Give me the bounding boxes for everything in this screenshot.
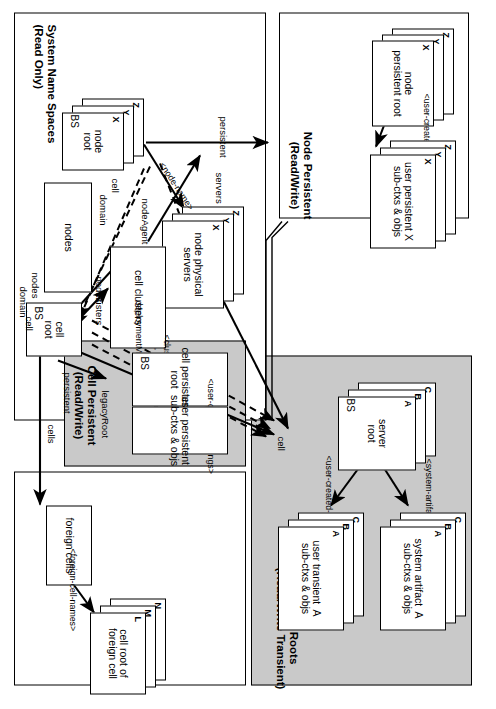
edge-label-domain-a: domain: [98, 194, 109, 225]
edge-label-domain-b: domain: [18, 286, 29, 317]
node-physical-servers: node physical servers: [162, 220, 224, 308]
user-persistent-node: user persistent X sub-ctxs & objs: [370, 154, 436, 248]
edge-label-foreign-cell-names: <foreign-cell-names>: [68, 548, 79, 631]
edge-label-cells: cells: [46, 424, 57, 443]
bs-marker-server-root: BS: [345, 398, 356, 411]
edge-label-legacy-root: legacyRoot: [100, 390, 111, 438]
edge-label-cell-b: cell: [276, 436, 287, 450]
bs-marker-node-root: BS: [69, 114, 80, 127]
nodes-context: nodes: [44, 182, 92, 292]
stack-tag-x-node-persistent-root: X: [421, 44, 431, 50]
edge-label-cell-c: cell: [24, 316, 35, 330]
cell-root-of-foreign-cell: cell root of foreign cell: [90, 612, 146, 694]
stack-tag-a-server-root: A: [403, 400, 413, 407]
edge-label-persistent-node: persistent: [218, 116, 229, 157]
stack-tag-x-node-physical-servers: X: [211, 224, 221, 230]
edge-label-nodes-b: nodes: [30, 272, 41, 298]
diagram-stage: Node Persistent (Read/Write) Server Root…: [0, 0, 496, 709]
edge-label-cell-a: cell: [110, 178, 121, 192]
stack-tag-l-cell-root-foreign: L: [133, 616, 143, 622]
panel-cell-persistent-title: Cell Persistent (Read/Write): [72, 355, 98, 455]
user-transient: user transient A sub-ctxs & objs: [278, 526, 344, 630]
panel-node-persistent-title: Node Persistent (Read/Write): [288, 110, 314, 240]
bs-marker-cell-persistent-root: BS: [139, 356, 150, 369]
panel-system-name-spaces-title: System Name Spaces (Read Only): [32, 24, 58, 174]
edge-label-clusters: clusters: [94, 292, 105, 325]
edge-label-servers: servers: [214, 172, 225, 203]
edge-label-node-agent: nodeAgent: [140, 198, 151, 244]
diagram-canvas: Node Persistent (Read/Write) Server Root…: [0, 0, 496, 709]
system-artifact: system artifact A sub-ctxs & objs: [380, 526, 446, 630]
stack-tag-x-user-persistent-node: X: [423, 158, 433, 164]
stack-tag-x-node-root: X: [111, 116, 121, 122]
stack-tag-a-system-artifact: A: [433, 530, 443, 537]
edge-label-persistent-cell: persistent: [62, 372, 73, 413]
user-persistent-cell: user persistent sub-ctxs & objs: [132, 406, 228, 454]
stack-tag-a-user-transient: A: [331, 530, 341, 537]
